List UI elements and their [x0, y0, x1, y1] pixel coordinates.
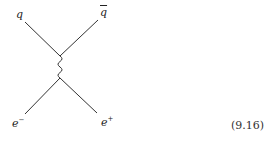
positron-line: [60, 78, 97, 113]
quark-line: [25, 22, 60, 56]
photon-propagator: [58, 56, 62, 78]
label-quark: q: [16, 9, 23, 20]
electron-line: [25, 78, 60, 114]
antiquark-line: [60, 20, 98, 56]
label-positron: e+: [101, 116, 113, 128]
label-electron-charge: −: [19, 116, 25, 124]
label-electron: e−: [12, 117, 24, 129]
label-positron-charge: +: [108, 115, 114, 123]
feynman-diagram-figure: q q e− e+ (9.16): [0, 0, 275, 141]
label-antiquark: q: [100, 7, 107, 18]
equation-number: (9.16): [231, 120, 264, 131]
